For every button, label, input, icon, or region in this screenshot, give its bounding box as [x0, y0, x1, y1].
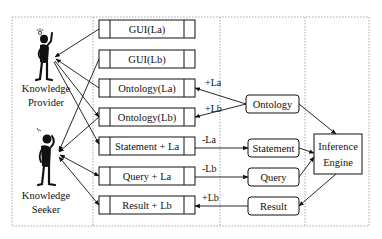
component-ontology-la: Ontology(La) [99, 79, 195, 97]
diagram-canvas: Knowledge Provider Knowledge Seeker GUI(… [0, 0, 382, 239]
knowledge-provider-figure-icon [36, 28, 52, 80]
resource-query-label: Query [260, 172, 287, 183]
edge-label-plus-la: +La [205, 77, 222, 88]
edge-label-minus-lb: -Lb [202, 163, 216, 174]
component-statement-la: Statement + La [99, 137, 195, 155]
component-gui-lb: GUI(Lb) [99, 50, 195, 68]
provider-label-line2: Provider [28, 97, 65, 108]
resource-statement-label: Statement [253, 143, 295, 154]
resource-result: Result [248, 197, 299, 215]
provider-label-line1: Knowledge [22, 83, 71, 94]
resource-ontology-label: Ontology [253, 99, 293, 110]
resource-statement: Statement [248, 139, 299, 157]
seeker-label-line2: Seeker [32, 204, 61, 215]
component-ontology-lb: Ontology(Lb) [99, 108, 195, 126]
resource-query: Query [248, 168, 299, 186]
actor-connections [54, 29, 99, 205]
query-la-label: Query + La [123, 171, 172, 182]
gui-la-label: GUI(La) [129, 24, 166, 36]
component-result-lb: Result + Lb [99, 196, 195, 214]
ontology-lb-label: Ontology(Lb) [118, 112, 177, 124]
ontology-la-label: Ontology(La) [118, 83, 176, 95]
edge-label-minus-la: -La [202, 134, 216, 145]
resource-result-label: Result [260, 201, 287, 212]
engine-label-line2: Engine [323, 157, 353, 168]
component-gui-la: GUI(La) [99, 20, 195, 38]
result-lb-label: Result + Lb [122, 200, 172, 211]
seeker-label-line1: Knowledge [22, 190, 71, 201]
component-query-la: Query + La [99, 167, 195, 185]
knowledge-seeker-figure-icon [37, 128, 55, 185]
gui-lb-label: GUI(Lb) [128, 54, 166, 66]
inference-engine: Inference Engine [314, 134, 362, 174]
statement-la-label: Statement + La [115, 141, 180, 152]
edge-label-result-plus-lb: +Lb [202, 192, 219, 203]
resource-ontology: Ontology [246, 95, 299, 113]
edge-label-plus-lb: +Lb [205, 103, 222, 114]
engine-label-line1: Inference [318, 141, 358, 152]
